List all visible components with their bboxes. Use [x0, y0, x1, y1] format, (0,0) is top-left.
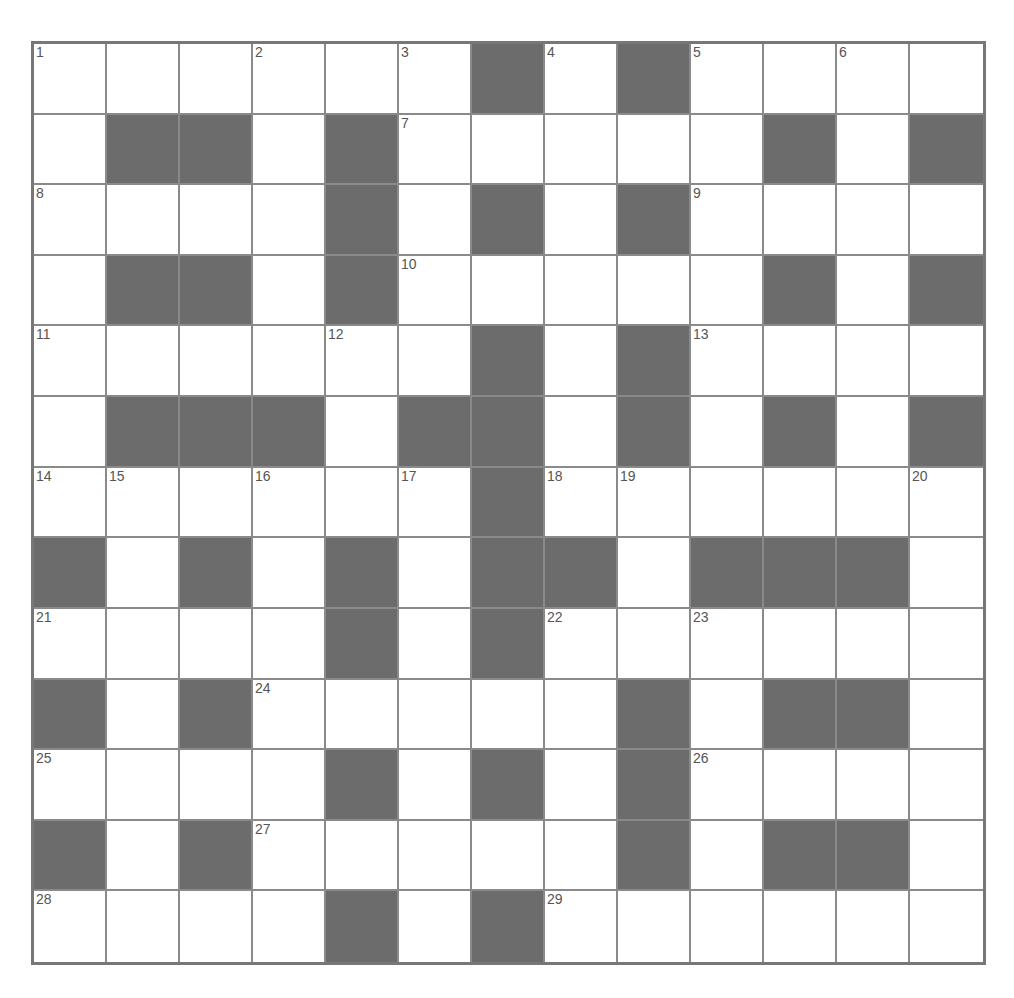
crossword-cell-r8-c8[interactable] — [618, 609, 691, 680]
crossword-cell-r8-c3[interactable] — [253, 609, 326, 680]
crossword-cell-r11-c5[interactable] — [399, 821, 472, 892]
crossword-cell-r4-c10[interactable] — [764, 326, 837, 397]
crossword-cell-r6-c10[interactable] — [764, 468, 837, 539]
crossword-cell-r10-c2[interactable] — [180, 750, 253, 821]
crossword-cell-r0-c5[interactable]: 3 — [399, 44, 472, 115]
crossword-cell-r2-c10[interactable] — [764, 185, 837, 256]
crossword-cell-r4-c1[interactable] — [107, 326, 180, 397]
crossword-cell-r9-c5[interactable] — [399, 680, 472, 751]
crossword-cell-r5-c7[interactable] — [545, 397, 618, 468]
crossword-cell-r6-c12[interactable]: 20 — [910, 468, 983, 539]
crossword-cell-r12-c10[interactable] — [764, 891, 837, 962]
crossword-cell-r4-c3[interactable] — [253, 326, 326, 397]
crossword-cell-r6-c4[interactable] — [326, 468, 399, 539]
crossword-cell-r2-c9[interactable]: 9 — [691, 185, 764, 256]
crossword-cell-r10-c9[interactable]: 26 — [691, 750, 764, 821]
crossword-cell-r8-c7[interactable]: 22 — [545, 609, 618, 680]
crossword-cell-r12-c0[interactable]: 28 — [34, 891, 107, 962]
crossword-cell-r0-c11[interactable]: 6 — [837, 44, 910, 115]
crossword-cell-r11-c6[interactable] — [472, 821, 545, 892]
crossword-cell-r8-c5[interactable] — [399, 609, 472, 680]
crossword-cell-r3-c8[interactable] — [618, 256, 691, 327]
crossword-cell-r12-c3[interactable] — [253, 891, 326, 962]
crossword-cell-r4-c9[interactable]: 13 — [691, 326, 764, 397]
crossword-cell-r8-c10[interactable] — [764, 609, 837, 680]
crossword-cell-r12-c9[interactable] — [691, 891, 764, 962]
crossword-cell-r12-c12[interactable] — [910, 891, 983, 962]
crossword-cell-r4-c7[interactable] — [545, 326, 618, 397]
crossword-cell-r1-c3[interactable] — [253, 115, 326, 186]
crossword-cell-r4-c12[interactable] — [910, 326, 983, 397]
crossword-cell-r10-c3[interactable] — [253, 750, 326, 821]
crossword-cell-r7-c1[interactable] — [107, 538, 180, 609]
crossword-cell-r5-c11[interactable] — [837, 397, 910, 468]
crossword-cell-r8-c0[interactable]: 21 — [34, 609, 107, 680]
crossword-cell-r11-c4[interactable] — [326, 821, 399, 892]
crossword-cell-r5-c0[interactable] — [34, 397, 107, 468]
crossword-cell-r7-c3[interactable] — [253, 538, 326, 609]
crossword-cell-r12-c11[interactable] — [837, 891, 910, 962]
crossword-cell-r3-c0[interactable] — [34, 256, 107, 327]
crossword-cell-r4-c0[interactable]: 11 — [34, 326, 107, 397]
crossword-cell-r12-c5[interactable] — [399, 891, 472, 962]
crossword-cell-r6-c9[interactable] — [691, 468, 764, 539]
crossword-cell-r11-c1[interactable] — [107, 821, 180, 892]
crossword-cell-r11-c7[interactable] — [545, 821, 618, 892]
crossword-cell-r4-c5[interactable] — [399, 326, 472, 397]
crossword-cell-r3-c5[interactable]: 10 — [399, 256, 472, 327]
crossword-cell-r10-c5[interactable] — [399, 750, 472, 821]
crossword-cell-r1-c0[interactable] — [34, 115, 107, 186]
crossword-cell-r9-c1[interactable] — [107, 680, 180, 751]
crossword-cell-r9-c7[interactable] — [545, 680, 618, 751]
crossword-cell-r2-c11[interactable] — [837, 185, 910, 256]
crossword-cell-r6-c8[interactable]: 19 — [618, 468, 691, 539]
crossword-cell-r6-c11[interactable] — [837, 468, 910, 539]
crossword-cell-r0-c9[interactable]: 5 — [691, 44, 764, 115]
crossword-cell-r9-c6[interactable] — [472, 680, 545, 751]
crossword-cell-r11-c3[interactable]: 27 — [253, 821, 326, 892]
crossword-cell-r3-c9[interactable] — [691, 256, 764, 327]
crossword-cell-r0-c4[interactable] — [326, 44, 399, 115]
crossword-cell-r8-c2[interactable] — [180, 609, 253, 680]
crossword-cell-r9-c12[interactable] — [910, 680, 983, 751]
crossword-cell-r0-c0[interactable]: 1 — [34, 44, 107, 115]
crossword-cell-r3-c3[interactable] — [253, 256, 326, 327]
crossword-cell-r4-c4[interactable]: 12 — [326, 326, 399, 397]
crossword-cell-r7-c8[interactable] — [618, 538, 691, 609]
crossword-cell-r0-c1[interactable] — [107, 44, 180, 115]
crossword-cell-r1-c6[interactable] — [472, 115, 545, 186]
crossword-cell-r0-c10[interactable] — [764, 44, 837, 115]
crossword-cell-r10-c10[interactable] — [764, 750, 837, 821]
crossword-cell-r8-c12[interactable] — [910, 609, 983, 680]
crossword-cell-r0-c7[interactable]: 4 — [545, 44, 618, 115]
crossword-cell-r6-c1[interactable]: 15 — [107, 468, 180, 539]
crossword-cell-r7-c12[interactable] — [910, 538, 983, 609]
crossword-cell-r6-c5[interactable]: 17 — [399, 468, 472, 539]
crossword-cell-r6-c3[interactable]: 16 — [253, 468, 326, 539]
crossword-cell-r1-c8[interactable] — [618, 115, 691, 186]
crossword-cell-r12-c8[interactable] — [618, 891, 691, 962]
crossword-cell-r12-c1[interactable] — [107, 891, 180, 962]
crossword-cell-r10-c0[interactable]: 25 — [34, 750, 107, 821]
crossword-cell-r6-c2[interactable] — [180, 468, 253, 539]
crossword-cell-r1-c5[interactable]: 7 — [399, 115, 472, 186]
crossword-cell-r0-c12[interactable] — [910, 44, 983, 115]
crossword-cell-r2-c0[interactable]: 8 — [34, 185, 107, 256]
crossword-cell-r4-c2[interactable] — [180, 326, 253, 397]
crossword-cell-r1-c9[interactable] — [691, 115, 764, 186]
crossword-cell-r8-c1[interactable] — [107, 609, 180, 680]
crossword-cell-r6-c7[interactable]: 18 — [545, 468, 618, 539]
crossword-cell-r6-c0[interactable]: 14 — [34, 468, 107, 539]
crossword-cell-r0-c2[interactable] — [180, 44, 253, 115]
crossword-cell-r12-c2[interactable] — [180, 891, 253, 962]
crossword-cell-r3-c11[interactable] — [837, 256, 910, 327]
crossword-cell-r10-c7[interactable] — [545, 750, 618, 821]
crossword-cell-r2-c5[interactable] — [399, 185, 472, 256]
crossword-cell-r2-c1[interactable] — [107, 185, 180, 256]
crossword-cell-r3-c6[interactable] — [472, 256, 545, 327]
crossword-cell-r1-c7[interactable] — [545, 115, 618, 186]
crossword-cell-r3-c7[interactable] — [545, 256, 618, 327]
crossword-cell-r9-c4[interactable] — [326, 680, 399, 751]
crossword-cell-r9-c9[interactable] — [691, 680, 764, 751]
crossword-cell-r9-c3[interactable]: 24 — [253, 680, 326, 751]
